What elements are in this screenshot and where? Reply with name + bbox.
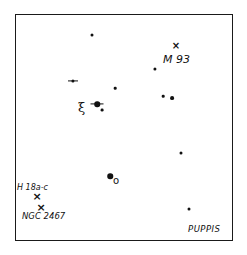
omicron-star-label: o — [113, 176, 119, 186]
star-dot-icon — [180, 152, 183, 155]
m93-label: M 93 — [163, 54, 190, 65]
xi-star-label: ξ — [78, 101, 85, 114]
chart-frame — [15, 14, 233, 241]
ngc2467-label: NGC 2467 — [22, 212, 65, 221]
star-dot-icon — [188, 208, 191, 211]
m93-cluster-marker-icon: × — [172, 41, 180, 51]
star-dot-icon — [170, 96, 174, 100]
constellation-label: PUPPIS — [188, 225, 221, 234]
star-dot-icon — [94, 101, 100, 107]
star-chart: × M 93 ξ o H 18a-c × × NGC 2467 PUPPIS — [0, 0, 247, 255]
star-dot-icon — [107, 173, 113, 179]
star-dot-icon — [162, 95, 165, 98]
star-dot-icon — [91, 34, 94, 37]
star-dot-icon — [114, 87, 117, 90]
star-dot-icon — [101, 109, 104, 112]
